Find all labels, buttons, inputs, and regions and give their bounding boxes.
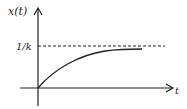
- growth-curve-diagram: x(t) 1/k t: [0, 0, 187, 109]
- y-axis-label: x(t): [8, 5, 27, 18]
- x-axis-label: t: [175, 85, 180, 96]
- growth-curve: [38, 49, 142, 88]
- asymptote-label: 1/k: [16, 41, 32, 52]
